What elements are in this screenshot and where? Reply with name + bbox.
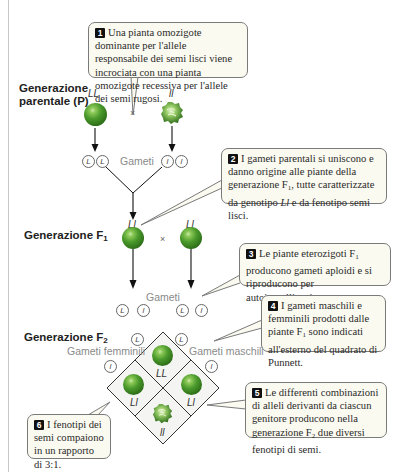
callout-1: 1Una pianta omozigote dominante per l'al…: [88, 22, 248, 78]
callout-3-sub: 1: [355, 253, 359, 261]
punnett-cell-genotype-right: Ll: [187, 397, 195, 408]
callout-2: 2I gameti parentali si uniscono e danno …: [221, 148, 387, 204]
gamete-allele: L: [116, 304, 129, 317]
female-gamete-allele: l: [104, 360, 117, 373]
callout-number-2: 2: [228, 154, 238, 164]
gamete-allele: l: [175, 155, 188, 168]
parental-right-genotype: ll: [169, 88, 173, 99]
cross-symbol: ×: [160, 234, 165, 244]
callout-4: 4I gameti maschili e femminili prodotti …: [261, 295, 386, 352]
gamete-allele: L: [96, 155, 109, 168]
punnett-cell-genotype-bottom: ll: [160, 427, 164, 438]
gamete-allele: L: [176, 304, 189, 317]
smooth-pea-icon: [122, 227, 144, 249]
callout-number-3: 3: [246, 249, 256, 259]
smooth-pea-icon: [123, 374, 144, 395]
f1-gametes-label: Gameti: [146, 291, 180, 303]
callout-3-text-a: Le piante eterozigoti F: [259, 248, 355, 259]
male-gamete-allele: L: [175, 333, 188, 346]
punnett-cell-genotype-left: Ll: [130, 397, 138, 408]
cross-symbol: ×: [130, 108, 135, 118]
smooth-pea-icon: [181, 374, 202, 395]
smooth-pea-icon: [180, 227, 202, 249]
punnett-cell-genotype-top: LL: [156, 368, 167, 379]
female-gamete-allele: L: [131, 333, 144, 346]
callout-number-5: 5: [252, 388, 262, 398]
male-gametes-label: Gameti maschili: [189, 345, 264, 357]
callout-2-genotype: Ll: [280, 197, 289, 208]
callout-number-6: 6: [34, 420, 44, 430]
callout-5: 5Le differenti combinazioni di alleli de…: [245, 382, 387, 438]
smooth-pea-icon: [84, 103, 107, 126]
wrinkled-pea-icon: [152, 403, 173, 424]
wrinkled-pea-icon: [160, 101, 184, 125]
callout-number-1: 1: [95, 28, 105, 38]
gamete-allele: l: [137, 304, 150, 317]
smooth-pea-icon: [152, 345, 173, 366]
female-gametes-label: Gameti femminili: [67, 345, 145, 357]
parental-left-genotype: LL: [88, 88, 99, 99]
gamete-allele: l: [195, 304, 208, 317]
gamete-allele: L: [82, 155, 95, 168]
parental-gametes-label: Gameti: [120, 155, 154, 167]
male-gamete-allele: l: [205, 360, 218, 373]
callout-number-4: 4: [268, 301, 278, 311]
gamete-allele: l: [161, 155, 174, 168]
callout-3: 3Le piante eterozigoti F1 producono game…: [239, 243, 391, 286]
callout-6: 6I fenotipi dei semi compaiono in un rap…: [27, 414, 111, 459]
